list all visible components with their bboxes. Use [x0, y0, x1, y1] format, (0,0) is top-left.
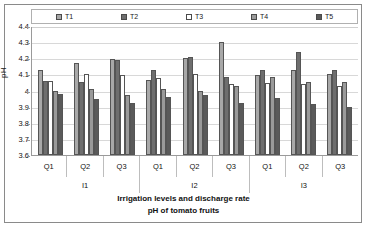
- category-axis-group: Q1Q2Q3: [140, 156, 249, 177]
- legend-entry-t2: T2: [97, 13, 162, 20]
- bar: [130, 103, 135, 155]
- bar: [203, 95, 208, 155]
- y-axis-tick-label: 4.2: [5, 56, 29, 64]
- bar: [166, 97, 171, 155]
- y-axis-tick-label: 3.8: [5, 120, 29, 128]
- legend-swatch-icon: [186, 14, 192, 20]
- plot-area: [31, 27, 358, 156]
- group-axis-label: I3: [250, 177, 358, 193]
- bar-cluster-i1-q3: [104, 27, 140, 155]
- y-axis-tick-mark: [27, 27, 30, 28]
- legend-swatch-icon: [121, 14, 127, 20]
- category-axis-label: Q3: [323, 156, 358, 177]
- bar-cluster-i3-q3: [322, 27, 358, 155]
- legend-entry-t1: T1: [32, 13, 97, 20]
- y-axis-tick-label: 3.9: [5, 104, 29, 112]
- category-axis-label: Q3: [104, 156, 139, 177]
- y-axis-tick-label: 4: [5, 88, 29, 96]
- bar-cluster-i2-q2: [177, 27, 213, 155]
- category-axis-label: Q2: [67, 156, 103, 177]
- legend-swatch-icon: [251, 14, 257, 20]
- bar-groups: [32, 27, 358, 155]
- group-axis-label: I1: [31, 177, 140, 193]
- y-axis-tick-label: 3.7: [5, 136, 29, 144]
- chart-figure: T1T2T3T4T5 pH 4.44.34.24.143.93.83.73.6 …: [0, 0, 367, 228]
- bar: [94, 99, 99, 155]
- y-axis-tick-mark: [27, 140, 30, 141]
- category-axis-label: Q1: [140, 156, 176, 177]
- x-axis-title: Irrigation levels and discharge rate: [0, 194, 367, 203]
- category-axis-group: Q1Q2Q3: [250, 156, 358, 177]
- category-axis-label: Q2: [177, 156, 213, 177]
- bar-cluster-i2-q1: [141, 27, 177, 155]
- group-axis-label: I2: [140, 177, 249, 193]
- legend-entry-t3: T3: [162, 13, 227, 20]
- irrigation-group-i2: [141, 27, 250, 155]
- bar-cluster-i1-q2: [68, 27, 104, 155]
- category-axis-label: Q1: [31, 156, 67, 177]
- bar-cluster-i3-q2: [286, 27, 322, 155]
- chart-title: pH of tomato fruits: [0, 206, 367, 215]
- y-axis-tick-mark: [27, 92, 30, 93]
- y-axis-tick-mark: [27, 108, 30, 109]
- legend-entry-t4: T4: [227, 13, 292, 20]
- legend-entry-t5: T5: [292, 13, 357, 20]
- legend-label: T3: [195, 13, 203, 20]
- y-axis-tick-label: 4.4: [5, 23, 29, 31]
- y-axis: 4.44.34.24.143.93.83.73.6: [0, 27, 29, 156]
- category-axis: Q1Q2Q3Q1Q2Q3Q1Q2Q3: [31, 156, 358, 177]
- irrigation-group-i3: [249, 27, 358, 155]
- legend-label: T5: [325, 13, 333, 20]
- y-axis-tick-mark: [27, 59, 30, 60]
- legend-swatch-icon: [56, 14, 62, 20]
- legend-label: T1: [65, 13, 73, 20]
- bar-cluster-i2-q3: [213, 27, 249, 155]
- group-axis: I1I2I3: [31, 177, 358, 193]
- legend-swatch-icon: [316, 14, 322, 20]
- legend-label: T2: [130, 13, 138, 20]
- bar: [239, 103, 244, 155]
- bar: [311, 104, 316, 155]
- chart-legend: T1T2T3T4T5: [31, 9, 358, 24]
- bar-cluster-i3-q1: [249, 27, 285, 155]
- category-axis-label: Q2: [286, 156, 322, 177]
- y-axis-tick-mark: [27, 156, 30, 157]
- legend-label: T4: [260, 13, 268, 20]
- y-axis-tick-mark: [27, 75, 30, 76]
- bar-cluster-i1-q1: [32, 27, 68, 155]
- y-axis-tick-mark: [27, 124, 30, 125]
- bar: [347, 107, 352, 155]
- y-axis-tick-mark: [27, 43, 30, 44]
- y-axis-tick-label: 4.3: [5, 39, 29, 47]
- category-axis-label: Q3: [213, 156, 248, 177]
- y-axis-tick-label: 3.6: [5, 152, 29, 160]
- bar: [58, 94, 63, 155]
- category-axis-group: Q1Q2Q3: [31, 156, 140, 177]
- irrigation-group-i1: [32, 27, 141, 155]
- y-axis-tick-label: 4.1: [5, 72, 29, 80]
- bar: [275, 98, 280, 155]
- category-axis-label: Q1: [250, 156, 286, 177]
